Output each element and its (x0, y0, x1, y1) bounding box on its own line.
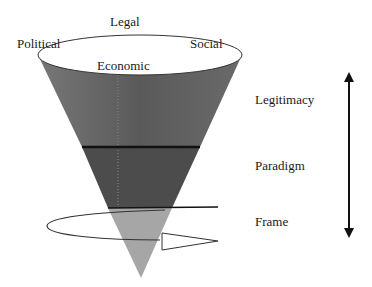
swirl-arrowhead (162, 233, 218, 250)
scale-arrow-down-icon (344, 228, 354, 238)
divider-paradigm-frame (108, 207, 218, 208)
rim-label-political: Political (17, 36, 60, 52)
layer-label-paradigm: Paradigm (255, 158, 305, 174)
layer-label-frame: Frame (255, 214, 288, 230)
rim-label-legal: Legal (110, 14, 140, 30)
scale-arrow-up-icon (344, 72, 354, 82)
layer-label-legitimacy: Legitimacy (255, 92, 314, 108)
rim-label-economic: Economic (97, 58, 150, 74)
paradigm-band (82, 147, 200, 208)
rim-label-social: Social (190, 36, 223, 52)
